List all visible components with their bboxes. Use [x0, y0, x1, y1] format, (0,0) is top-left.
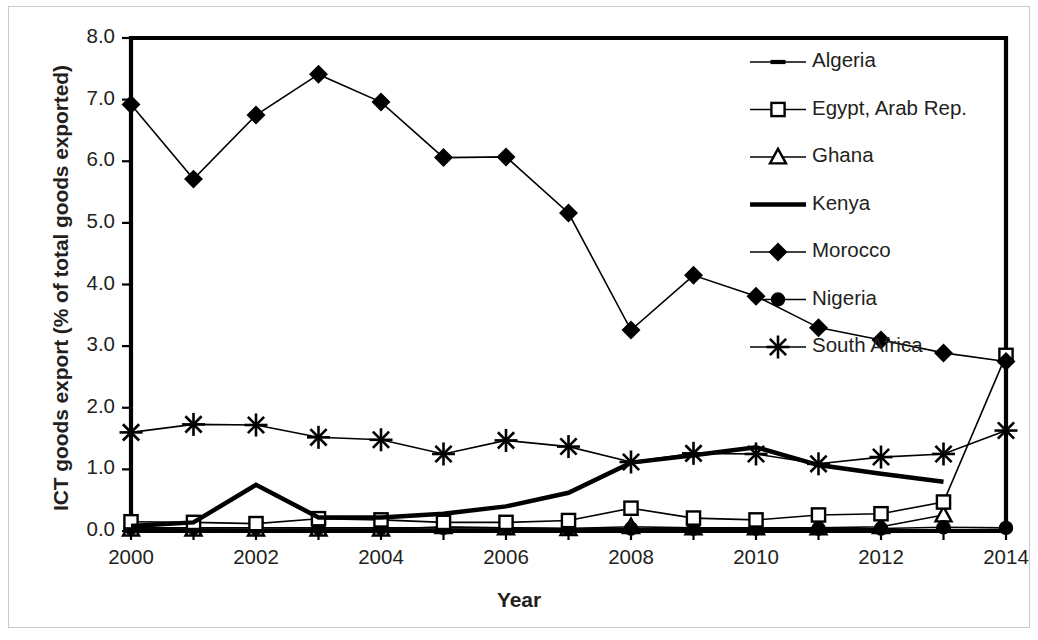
x-axis-tick-label: 2012 — [836, 545, 926, 569]
marker-filled-circle — [624, 522, 637, 535]
legend-entry-south-africa[interactable] — [750, 336, 806, 359]
marker-asterisk — [995, 419, 1018, 442]
x-axis-tick-label: 2014 — [961, 545, 1038, 569]
legend-label[interactable]: Nigeria — [812, 286, 877, 310]
x-axis-tick-label: 2008 — [586, 545, 676, 569]
series-south-africa — [120, 413, 1018, 475]
marker-open-square — [687, 511, 700, 524]
marker-open-square — [771, 103, 784, 116]
marker-open-square — [249, 517, 262, 530]
x-axis-tick-label: 2006 — [461, 545, 551, 569]
marker-open-square — [499, 516, 512, 529]
marker-filled-circle — [937, 521, 950, 534]
legend-label[interactable]: Kenya — [812, 191, 870, 215]
marker-open-square — [437, 516, 450, 529]
marker-filled-diamond — [770, 244, 787, 261]
y-axis-tick-label: 0.0 — [57, 517, 115, 541]
y-axis-tick-label: 2.0 — [57, 394, 115, 418]
legend-label[interactable]: Ghana — [812, 143, 874, 167]
legend-label[interactable]: South Africa — [812, 333, 923, 357]
marker-asterisk — [307, 426, 330, 449]
marker-open-square — [937, 495, 950, 508]
x-axis-tick-label: 2000 — [86, 545, 176, 569]
marker-filled-circle — [874, 522, 887, 535]
marker-open-square — [562, 514, 575, 527]
legend-label[interactable]: Morocco — [812, 238, 891, 262]
y-axis-tick-label: 6.0 — [57, 147, 115, 171]
chart-figure: ICT goods export (% of total goods expor… — [0, 0, 1038, 640]
legend-entry-egypt-arab-rep[interactable] — [750, 103, 806, 116]
marker-open-square — [812, 508, 825, 521]
y-axis-tick-label: 1.0 — [57, 455, 115, 479]
marker-asterisk — [932, 442, 955, 465]
legend-entry-ghana[interactable] — [750, 149, 806, 164]
marker-asterisk — [557, 435, 580, 458]
y-axis-tick-label: 5.0 — [57, 209, 115, 233]
marker-asterisk — [767, 336, 790, 359]
marker-filled-diamond — [935, 344, 952, 361]
legend-label[interactable]: Egypt, Arab Rep. — [812, 96, 967, 120]
marker-asterisk — [495, 429, 518, 452]
marker-open-square — [624, 502, 637, 515]
x-axis-tick-label: 2010 — [711, 545, 801, 569]
marker-filled-diamond — [310, 66, 327, 83]
marker-asterisk — [120, 421, 143, 444]
legend-entry-morocco[interactable] — [750, 244, 806, 261]
legend-label[interactable]: Algeria — [812, 48, 876, 72]
x-axis-tick-label: 2002 — [211, 545, 301, 569]
y-axis-tick-label: 3.0 — [57, 332, 115, 356]
marker-filled-circle — [812, 522, 825, 535]
marker-filled-diamond — [748, 288, 765, 305]
marker-asterisk — [182, 413, 205, 436]
marker-open-square — [874, 507, 887, 520]
marker-asterisk — [370, 428, 393, 451]
y-axis-tick-label: 7.0 — [57, 86, 115, 110]
y-axis-tick-label: 4.0 — [57, 271, 115, 295]
marker-open-square — [749, 513, 762, 526]
marker-asterisk — [870, 446, 893, 469]
y-axis-tick-label: 8.0 — [57, 24, 115, 48]
marker-open-triangle — [770, 149, 786, 164]
marker-asterisk — [245, 414, 268, 437]
marker-filled-circle — [771, 293, 784, 306]
x-axis-tick-label: 2004 — [336, 545, 426, 569]
marker-asterisk — [432, 442, 455, 465]
marker-filled-circle — [999, 521, 1012, 534]
